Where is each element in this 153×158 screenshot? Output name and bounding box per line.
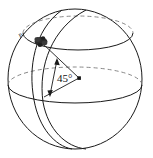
dimension-arrow-line	[50, 60, 57, 95]
sphere-figure: 45° P	[0, 0, 153, 158]
dimension-arrowhead-bottom	[47, 90, 52, 97]
sphere-center-point	[77, 76, 81, 80]
angle-label: 45°	[57, 72, 72, 84]
sphere-diagram: 45° P	[0, 0, 153, 158]
equator-back-arc	[8, 67, 142, 85]
equator-front-arc	[8, 85, 142, 103]
sphere-outline	[8, 9, 142, 149]
